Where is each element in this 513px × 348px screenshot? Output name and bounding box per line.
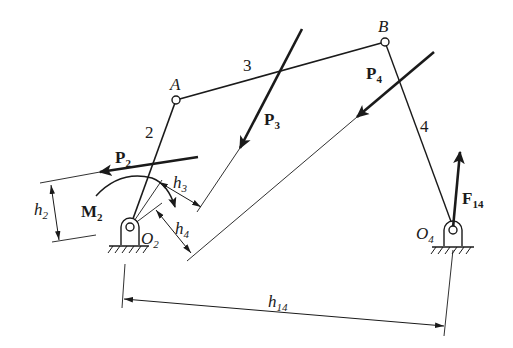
label-f14: F14	[462, 189, 484, 210]
label-p4: P4	[366, 64, 382, 85]
h2-dimension-line	[51, 185, 59, 240]
m2-moment-arc	[96, 176, 175, 207]
label-link-2: 2	[145, 123, 154, 142]
label-h14: h14	[268, 292, 288, 313]
p4-force-arrow	[357, 52, 434, 117]
label-h3: h3	[173, 173, 188, 194]
label-link-4: 4	[420, 117, 429, 136]
p3-line-of-action	[197, 148, 240, 212]
linkage-diagram: A B 2 3 4 O2 O4 P2 P3 P4 F14 M2 h2 h3 h4…	[0, 0, 513, 348]
label-o4: O4	[416, 224, 434, 245]
f14-force-arrow	[453, 152, 460, 228]
label-p3: P3	[264, 110, 280, 131]
label-p2: P2	[115, 148, 131, 169]
p2-line-of-action	[40, 172, 100, 183]
label-joint-b: B	[378, 17, 389, 36]
joint-o4	[449, 226, 457, 234]
label-o2: O2	[141, 229, 159, 250]
label-h4: h4	[175, 219, 190, 240]
h14-extension-left	[122, 264, 125, 308]
label-m2: M2	[81, 202, 103, 223]
joint-a	[172, 96, 180, 104]
label-joint-a: A	[169, 75, 181, 94]
label-h2: h2	[34, 200, 49, 221]
label-link-3: 3	[243, 56, 252, 75]
link-4	[385, 42, 453, 227]
p3-force-arrow	[240, 29, 302, 148]
joint-b	[381, 38, 389, 46]
joint-o2	[126, 223, 134, 231]
h14-extension-right	[444, 250, 453, 336]
